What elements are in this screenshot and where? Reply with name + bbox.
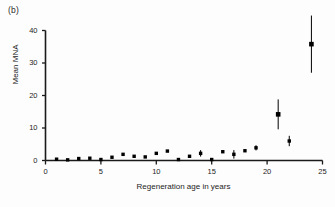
data-point-marker: [254, 146, 257, 149]
data-point-marker: [276, 112, 281, 117]
data-point-marker: [232, 153, 235, 156]
data-point-marker: [88, 157, 91, 160]
data-point-marker: [155, 152, 158, 155]
x-tick-label: 10: [146, 168, 166, 176]
y-tick-label: 20: [16, 92, 38, 100]
data-point-marker: [110, 156, 113, 159]
data-point-marker: [77, 157, 80, 160]
data-point-marker: [121, 153, 124, 156]
data-point-marker: [243, 149, 246, 152]
x-tick-label: 5: [91, 168, 111, 176]
data-point-marker: [132, 155, 135, 158]
y-tick-label: 0: [16, 157, 38, 165]
data-point-marker: [66, 158, 69, 161]
x-tick-label: 0: [36, 168, 56, 176]
data-point-marker: [210, 158, 213, 161]
x-tick-label: 20: [257, 168, 277, 176]
data-point-marker: [166, 149, 169, 152]
data-point-marker: [144, 155, 147, 158]
data-point-marker: [99, 158, 102, 161]
data-point-marker: [288, 139, 291, 142]
y-tick-label: 30: [16, 59, 38, 67]
y-tick-label: 10: [16, 124, 38, 132]
x-tick-label: 25: [313, 168, 333, 176]
data-point-marker: [199, 152, 202, 155]
x-tick-label: 15: [202, 168, 222, 176]
data-point-marker: [309, 42, 314, 47]
data-point-marker: [188, 155, 191, 158]
data-point-marker: [177, 158, 180, 161]
data-point-marker: [221, 150, 224, 153]
y-tick-label: 40: [16, 27, 38, 35]
data-point-marker: [55, 158, 58, 161]
scatter-plot: [0, 0, 335, 207]
figure-panel: (b) Mean MNA Regeneration age in years 0…: [0, 0, 335, 207]
